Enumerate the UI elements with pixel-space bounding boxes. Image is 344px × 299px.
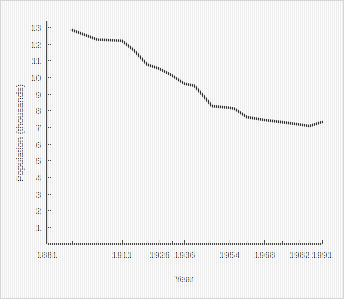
y-tick-label: 3 [36,189,41,200]
population-line-series [72,30,322,126]
y-tick-label: 5 [36,155,41,166]
y-tick-label: 12 [30,39,41,50]
y-tick-label: 8 [36,105,41,116]
x-tick-label: 1881 [36,249,57,260]
x-tick-label: 1936 [174,249,195,260]
y-tick-label: 13 [30,22,41,33]
x-axis-title: Year [174,273,193,284]
line-chart: 18811911192619361954196819821991 1234567… [1,1,344,299]
y-tick-label: 7 [36,122,41,133]
y-tick-label: 4 [36,172,41,183]
x-tick-label: 1911 [112,249,132,260]
x-tick-label: 1954 [219,249,240,260]
y-axis-tick-labels: 12345678910111213 [30,22,41,233]
x-axis-tick-labels: 18811911192619361954196819821991 [36,249,332,260]
x-tick-label: 1968 [254,249,275,260]
y-tick-label: 6 [36,139,41,150]
y-tick-label: 10 [30,72,41,83]
x-tick-label: 1982 [289,249,310,260]
y-tick-label: 1 [36,222,41,233]
x-tick-label: 1991 [311,249,332,260]
y-tick-label: 11 [31,55,41,66]
y-tick-label: 9 [36,89,41,100]
y-axis-title: Population (thousands) [14,84,25,182]
y-tick-label: 2 [36,205,41,216]
chart-figure: 18811911192619361954196819821991 1234567… [0,0,344,299]
x-tick-label: 1926 [149,249,170,260]
